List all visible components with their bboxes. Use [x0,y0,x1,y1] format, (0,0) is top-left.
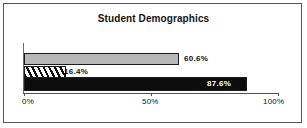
bar-label-series-3: 87.6% [207,77,231,91]
chart-title: Student Demographics [4,13,303,24]
bar-row-series-1: 60.6% [24,53,279,65]
bar-group: 60.6% 16.4% 87.6% [24,43,279,93]
x-tick-0 [24,93,25,96]
plot-area: 60.6% 16.4% 87.6% 0% 50% 100% [23,43,279,93]
bar-series-1 [24,53,179,65]
bar-label-series-1: 60.6% [184,53,208,65]
chart-frame: Student Demographics 60.6% 16.4% 87.6% 0… [3,3,302,123]
x-tick-label-0: 0% [22,97,34,106]
x-tick-100 [278,93,279,96]
x-tick-label-100: 100% [263,97,284,106]
x-tick-label-50: 50% [142,97,159,106]
bar-row-series-3: 87.6% [24,77,279,91]
x-tick-50 [151,93,152,96]
